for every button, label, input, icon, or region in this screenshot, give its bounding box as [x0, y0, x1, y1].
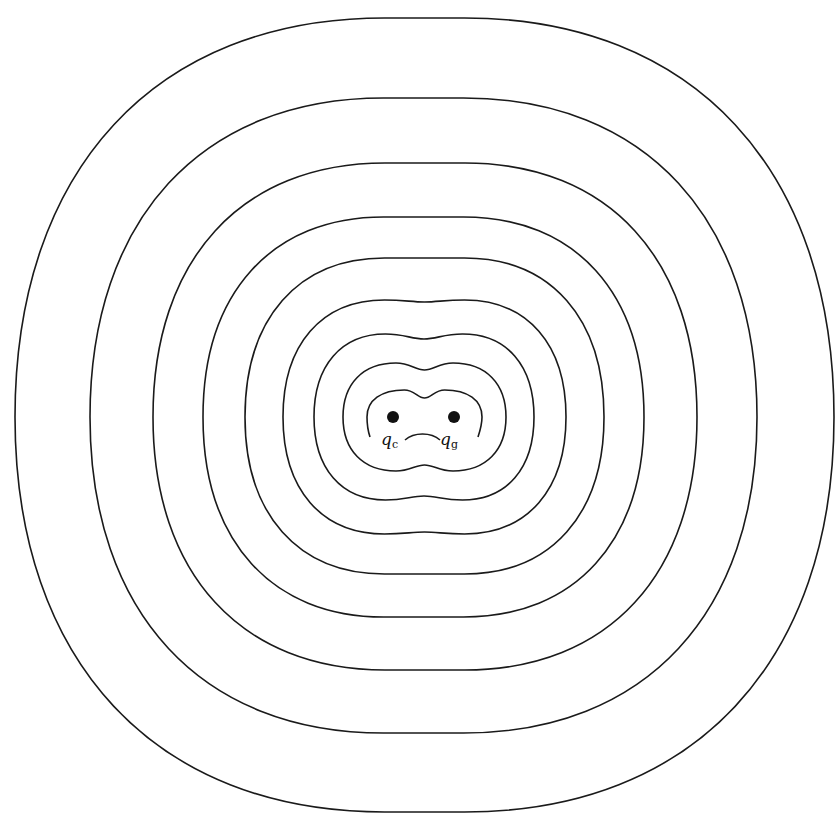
inner-contour-bottom-segment	[405, 434, 440, 440]
contour-line-9	[15, 18, 834, 812]
label-qg: qg	[440, 431, 458, 450]
contour-line-5	[245, 258, 604, 574]
label-qc: qc	[381, 431, 398, 450]
charge-dot-c-icon	[387, 411, 399, 423]
contour-line-3	[314, 334, 534, 500]
contour-line-4	[283, 300, 566, 534]
charges	[387, 411, 460, 423]
contour-diagram	[0, 0, 836, 814]
label-qc-subscript: c	[392, 438, 398, 451]
contour-line-7	[153, 163, 697, 670]
label-qc-symbol: q	[381, 429, 392, 449]
label-qg-subscript: g	[451, 438, 458, 451]
contour-line-1	[367, 417, 370, 437]
label-qg-symbol: q	[440, 429, 451, 449]
contour-line-6	[203, 217, 644, 617]
equipotential-contours	[15, 18, 834, 812]
charge-dot-g-icon	[448, 411, 460, 423]
contour-line-8	[90, 98, 757, 733]
